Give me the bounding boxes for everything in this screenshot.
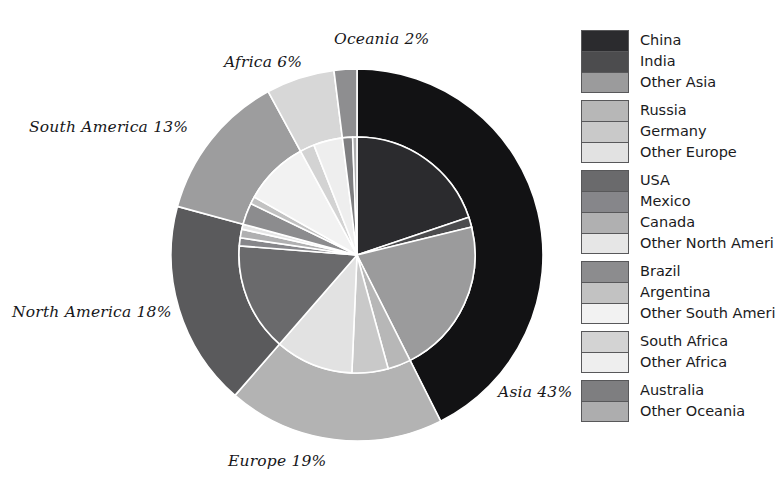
legend-group-europe: RussiaGermanyOther Europe bbox=[581, 100, 783, 163]
legend-item-other-europe[interactable]: Other Europe bbox=[581, 142, 783, 163]
legend-item-australia[interactable]: Australia bbox=[581, 380, 783, 401]
legend-label-south-africa: South Africa bbox=[640, 331, 728, 352]
legend-item-russia[interactable]: Russia bbox=[581, 100, 783, 121]
legend-label-russia: Russia bbox=[640, 100, 687, 121]
legend-label-usa: USA bbox=[640, 170, 670, 191]
legend-label-other-oceania: Other Oceania bbox=[640, 401, 745, 422]
legend-swatch-other-asia bbox=[581, 72, 629, 93]
legend-swatch-australia bbox=[581, 380, 629, 401]
legend-label-canada: Canada bbox=[640, 212, 695, 233]
legend-item-other-africa[interactable]: Other Africa bbox=[581, 352, 783, 373]
legend-label-argentina: Argentina bbox=[640, 282, 711, 303]
legend-item-china[interactable]: China bbox=[581, 30, 783, 51]
legend-swatch-germany bbox=[581, 121, 629, 142]
legend-item-brazil[interactable]: Brazil bbox=[581, 261, 783, 282]
legend-item-mexico[interactable]: Mexico bbox=[581, 191, 783, 212]
legend-swatch-other-europe bbox=[581, 142, 629, 163]
legend-item-germany[interactable]: Germany bbox=[581, 121, 783, 142]
legend-label-brazil: Brazil bbox=[640, 261, 680, 282]
chart-legend: ChinaIndiaOther AsiaRussiaGermanyOther E… bbox=[581, 30, 783, 429]
legend-item-other-south-ameri[interactable]: Other South Ameri bbox=[581, 303, 783, 324]
legend-swatch-south-africa bbox=[581, 331, 629, 352]
legend-label-other-north-ameri: Other North Ameri bbox=[640, 233, 774, 254]
legend-item-other-oceania[interactable]: Other Oceania bbox=[581, 401, 783, 422]
legend-group-africa: South AfricaOther Africa bbox=[581, 331, 783, 373]
legend-item-south-africa[interactable]: South Africa bbox=[581, 331, 783, 352]
legend-swatch-other-north-ameri bbox=[581, 233, 629, 254]
legend-swatch-brazil bbox=[581, 261, 629, 282]
legend-swatch-russia bbox=[581, 100, 629, 121]
legend-swatch-china bbox=[581, 30, 629, 51]
legend-swatch-other-south-ameri bbox=[581, 303, 629, 324]
legend-swatch-argentina bbox=[581, 282, 629, 303]
legend-item-india[interactable]: India bbox=[581, 51, 783, 72]
legend-label-other-europe: Other Europe bbox=[640, 142, 737, 163]
legend-item-other-asia[interactable]: Other Asia bbox=[581, 72, 783, 93]
legend-group-south-america: BrazilArgentinaOther South Ameri bbox=[581, 261, 783, 324]
legend-item-argentina[interactable]: Argentina bbox=[581, 282, 783, 303]
pie-label-north: North America 18% bbox=[12, 303, 172, 321]
legend-label-other-south-ameri: Other South Ameri bbox=[640, 303, 775, 324]
legend-item-usa[interactable]: USA bbox=[581, 170, 783, 191]
legend-item-other-north-ameri[interactable]: Other North Ameri bbox=[581, 233, 783, 254]
legend-swatch-usa bbox=[581, 170, 629, 191]
legend-swatch-other-oceania bbox=[581, 401, 629, 422]
pie-label-south: South America 13% bbox=[29, 118, 188, 136]
legend-swatch-india bbox=[581, 51, 629, 72]
legend-group-asia: ChinaIndiaOther Asia bbox=[581, 30, 783, 93]
pie-label-asia: Asia 43% bbox=[498, 383, 572, 401]
legend-item-canada[interactable]: Canada bbox=[581, 212, 783, 233]
chart-canvas: Asia 43%Europe 19%North America 18%South… bbox=[0, 0, 783, 482]
pie-label-africa: Africa 6% bbox=[224, 53, 302, 71]
inner-pie-countries bbox=[239, 137, 475, 373]
legend-swatch-mexico bbox=[581, 191, 629, 212]
legend-label-other-africa: Other Africa bbox=[640, 352, 727, 373]
legend-label-other-asia: Other Asia bbox=[640, 72, 716, 93]
legend-swatch-canada bbox=[581, 212, 629, 233]
legend-label-india: India bbox=[640, 51, 676, 72]
legend-label-china: China bbox=[640, 30, 681, 51]
legend-label-mexico: Mexico bbox=[640, 191, 691, 212]
legend-group-oceania: AustraliaOther Oceania bbox=[581, 380, 783, 422]
legend-label-germany: Germany bbox=[640, 121, 707, 142]
legend-swatch-other-africa bbox=[581, 352, 629, 373]
pie-label-europe: Europe 19% bbox=[228, 452, 327, 470]
pie-label-oceania: Oceania 2% bbox=[334, 30, 430, 48]
legend-group-north-america: USAMexicoCanadaOther North Ameri bbox=[581, 170, 783, 254]
legend-label-australia: Australia bbox=[640, 380, 704, 401]
